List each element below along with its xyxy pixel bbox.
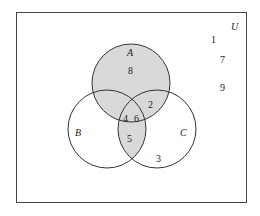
element-1: 1 [211,34,216,45]
element-8: 8 [128,65,133,76]
element-7: 7 [220,54,225,65]
venn-diagram: U A B C 1 7 9 8 2 4 6 5 3 [0,0,260,216]
element-3: 3 [156,153,161,164]
element-5: 5 [127,133,132,144]
set-a-label: A [126,47,134,58]
set-c-label: C [180,127,187,138]
element-9: 9 [220,82,225,93]
element-6: 6 [134,113,139,124]
universe-label: U [231,21,239,32]
set-b-label: B [75,127,81,138]
element-4: 4 [123,113,128,124]
element-2: 2 [148,99,153,110]
